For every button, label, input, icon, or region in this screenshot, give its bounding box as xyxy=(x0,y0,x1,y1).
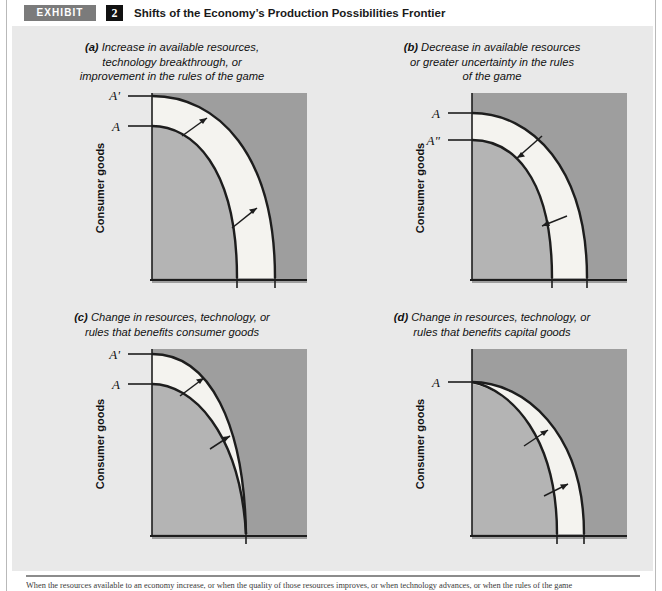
panel-d-label-a: A xyxy=(431,375,440,390)
panel-a-label-a-prime: A' xyxy=(108,88,120,103)
panel-b-svg: A A" F" F Consumer goods Capital goods xyxy=(352,88,652,288)
panel-a-y-axis-label: Consumer goods xyxy=(94,143,106,233)
panel-b-label-a: A xyxy=(431,106,440,121)
panel-b-letter: (b) xyxy=(404,41,418,53)
footnote-text: When the resources available to an econo… xyxy=(26,581,653,591)
page-frame-left-rule xyxy=(6,0,7,591)
panel-c-chart: A' A F Consumer goods Capital goods xyxy=(32,344,332,544)
panel-a-svg: A' A F F' Consumer goods Capital goods xyxy=(32,88,332,288)
panel-b-caption-line-2: or greater uncertainty in the rules xyxy=(410,56,574,68)
panel-a-caption-line-2: technology breakthrough, or xyxy=(102,56,241,68)
exhibit-page: EXHIBIT 2 Shifts of the Economy’s Produc… xyxy=(0,0,662,591)
panel-a-label-a: A xyxy=(111,119,120,134)
panel-c-svg: A' A F Consumer goods Capital goods xyxy=(32,344,332,544)
panel-a: (a) Increase in available resources, tec… xyxy=(12,28,332,296)
panel-b-caption-line-1: Decrease in available resources xyxy=(421,41,580,53)
panel-c-letter: (c) xyxy=(74,311,88,323)
panel-a-letter: (a) xyxy=(85,41,99,53)
panel-a-caption-line-3: improvement in the rules of the game xyxy=(80,70,265,82)
panel-d-caption-line-1: Change in resources, technology, or xyxy=(411,311,590,323)
page-frame-right-rule xyxy=(655,0,656,591)
exhibit-title: Shifts of the Economy’s Production Possi… xyxy=(134,5,445,21)
panel-b-y-axis-label: Consumer goods xyxy=(414,143,426,233)
panel-b-chart: A A" F" F Consumer goods Capital goods xyxy=(352,88,652,288)
panel-a-caption-line-1: Increase in available resources, xyxy=(102,41,259,53)
panel-b-label-a-double-prime: A" xyxy=(426,133,441,148)
panel-b: (b) Decrease in available resources or g… xyxy=(332,28,652,296)
exhibit-header: EXHIBIT 2 Shifts of the Economy’s Produc… xyxy=(12,2,655,24)
panel-d-y-axis-label: Consumer goods xyxy=(414,399,426,489)
exhibit-tag: EXHIBIT xyxy=(24,5,96,21)
exhibit-footnote: When the resources available to an econo… xyxy=(12,575,653,591)
panel-a-caption: (a) Increase in available resources, tec… xyxy=(12,40,332,84)
exhibit-number-badge: 2 xyxy=(106,5,123,21)
panel-a-chart: A' A F F' Consumer goods Capital goods xyxy=(32,88,332,288)
exhibit-body: (a) Increase in available resources, tec… xyxy=(12,26,653,571)
panel-c-label-a-prime: A' xyxy=(108,347,120,362)
panel-d: (d) Change in resources, technology, or … xyxy=(332,302,652,570)
panel-c-caption-line-1: Change in resources, technology, or xyxy=(91,311,270,323)
panel-c-caption-line-2: rules that benefits consumer goods xyxy=(85,326,259,338)
panel-d-caption: (d) Change in resources, technology, or … xyxy=(332,310,652,339)
panel-c-caption: (c) Change in resources, technology, or … xyxy=(12,310,332,339)
panel-b-caption-line-3: of the game xyxy=(462,70,521,82)
panel-d-caption-line-2: rules that benefits capital goods xyxy=(413,326,570,338)
panel-d-letter: (d) xyxy=(394,311,408,323)
panel-c-label-a: A xyxy=(111,377,120,392)
panel-d-svg: A F F' Consumer goods Capital goods xyxy=(352,344,652,544)
panel-b-caption: (b) Decrease in available resources or g… xyxy=(332,40,652,84)
panel-c: (c) Change in resources, technology, or … xyxy=(12,302,332,570)
panel-d-chart: A F F' Consumer goods Capital goods xyxy=(352,344,652,544)
footnote-divider xyxy=(26,575,640,577)
panel-c-y-axis-label: Consumer goods xyxy=(94,399,106,489)
